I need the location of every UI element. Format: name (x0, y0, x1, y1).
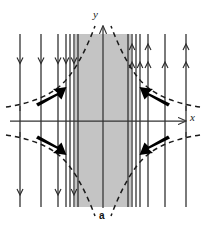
field-arrowheads-right (129, 44, 189, 68)
y-axis-label: y (93, 9, 98, 20)
x-axis-label: x (190, 112, 195, 123)
phase-portrait-figure: y x a (0, 0, 206, 236)
direction-field-plot (0, 0, 206, 236)
field-arrowheads-left (17, 58, 77, 196)
panel-label: a (99, 211, 105, 221)
